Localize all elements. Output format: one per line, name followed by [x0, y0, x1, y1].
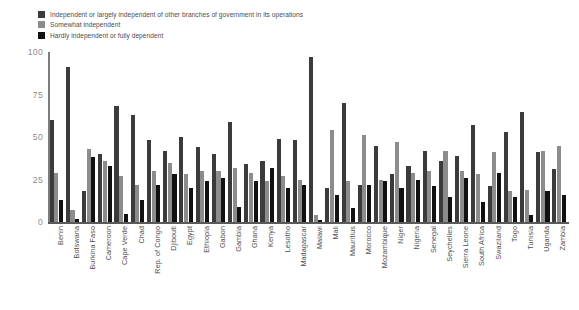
bar	[163, 151, 167, 222]
x-axis-label-cell: Seychelles	[439, 226, 455, 310]
x-axis-label-cell: South Africa	[471, 226, 487, 310]
bar	[460, 171, 464, 222]
bar-group	[552, 52, 568, 222]
bar	[439, 161, 443, 222]
bar	[504, 132, 508, 222]
bar	[244, 164, 248, 222]
x-axis-tick-label: Tunisia	[526, 226, 535, 250]
bar	[545, 191, 549, 222]
bar	[189, 188, 193, 222]
x-axis-label-cell: Rep. of Congo	[147, 226, 163, 310]
bar	[75, 219, 79, 222]
bar-chart: Independent or largely independent of ot…	[0, 0, 579, 310]
bar-group	[423, 52, 439, 222]
bar-group	[277, 52, 293, 222]
x-axis-tick-label: Mozambique	[380, 226, 389, 268]
bar	[82, 191, 86, 222]
bar-group	[163, 52, 179, 222]
x-axis-tick-label: Togo	[510, 226, 519, 242]
bar	[390, 174, 394, 222]
x-axis-label-cell: Mauritius	[342, 226, 358, 310]
bar	[114, 106, 118, 222]
bar	[87, 149, 91, 222]
bar	[508, 191, 512, 222]
bar	[119, 176, 123, 222]
bar	[205, 181, 209, 222]
bar	[497, 173, 501, 222]
bar	[302, 185, 306, 222]
bar-group	[66, 52, 82, 222]
x-axis-tick-label: Ethiopia	[202, 226, 211, 253]
bar	[131, 115, 135, 222]
x-axis-label-cell: Senegal	[423, 226, 439, 310]
x-axis-label-cell: Nigeria	[406, 226, 422, 310]
bar	[351, 208, 355, 222]
y-axis-tick-label: 75	[33, 90, 43, 100]
y-axis-tick-label: 100	[28, 47, 43, 57]
bar-groups	[50, 52, 569, 222]
bar	[281, 176, 285, 222]
x-axis-label-cell: Swaziland	[488, 226, 504, 310]
x-axis-label-cell: Mali	[325, 226, 341, 310]
x-axis-label-cell: Ghana	[244, 226, 260, 310]
bar-group	[179, 52, 195, 222]
x-axis-label-cell: Zambia	[552, 226, 568, 310]
bar	[541, 151, 545, 222]
bar	[277, 139, 281, 222]
bar-group	[309, 52, 325, 222]
bar	[374, 146, 378, 223]
x-axis-tick-label: Djibouti	[169, 226, 178, 251]
x-axis-tick-label: Uganda	[542, 226, 551, 252]
bar	[399, 188, 403, 222]
legend-item: Independent or largely independent of ot…	[38, 10, 518, 20]
bar	[557, 146, 561, 223]
x-axis-tick-label: South Africa	[477, 226, 486, 266]
bar	[221, 178, 225, 222]
bar-group	[260, 52, 276, 222]
bar-group	[342, 52, 358, 222]
bar	[448, 197, 452, 223]
bar	[91, 157, 95, 222]
bar-group	[147, 52, 163, 222]
bar	[443, 151, 447, 222]
bar	[286, 188, 290, 222]
x-axis-tick-label: Chad	[137, 226, 146, 244]
x-axis-label-cell: Uganda	[536, 226, 552, 310]
x-axis-tick-label: Swaziland	[494, 226, 503, 260]
bar	[362, 135, 366, 222]
x-axis-tick-label: Kenya	[266, 226, 275, 247]
bar	[325, 188, 329, 222]
bar-group	[50, 52, 66, 222]
bar	[260, 161, 264, 222]
bar	[342, 103, 346, 222]
bar-group	[471, 52, 487, 222]
bar	[367, 185, 371, 222]
x-axis-label-cell: Ethiopia	[196, 226, 212, 310]
x-axis-tick-label: Sierra Leone	[461, 226, 470, 268]
x-axis-label-cell: Niger	[390, 226, 406, 310]
x-axis-tick-label: Gambia	[234, 226, 243, 252]
x-axis-tick-label: Mali	[331, 226, 340, 240]
legend-swatch-icon	[38, 11, 45, 18]
x-axis-label-cell: Chad	[131, 226, 147, 310]
bar	[536, 152, 540, 222]
bar	[50, 120, 54, 222]
bar	[314, 215, 318, 222]
bar	[265, 181, 269, 222]
bar	[270, 168, 274, 222]
bar-group	[520, 52, 536, 222]
bar-group	[228, 52, 244, 222]
x-axis-tick-label: Morocco	[364, 226, 373, 254]
bar	[59, 200, 63, 222]
bar-group	[82, 52, 98, 222]
legend-item-label: Somewhat independent	[50, 20, 120, 29]
legend-item-label: Independent or largely independent of ot…	[50, 10, 303, 19]
legend-item: Hardly independent or fully dependent	[38, 30, 518, 40]
x-axis-label-cell: Burkina Faso	[82, 226, 98, 310]
bar-group	[98, 52, 114, 222]
bar	[228, 122, 232, 222]
x-axis-tick-label: Rep. of Congo	[153, 226, 162, 274]
bar	[135, 185, 139, 222]
bar-group	[455, 52, 471, 222]
bar-group	[374, 52, 390, 222]
